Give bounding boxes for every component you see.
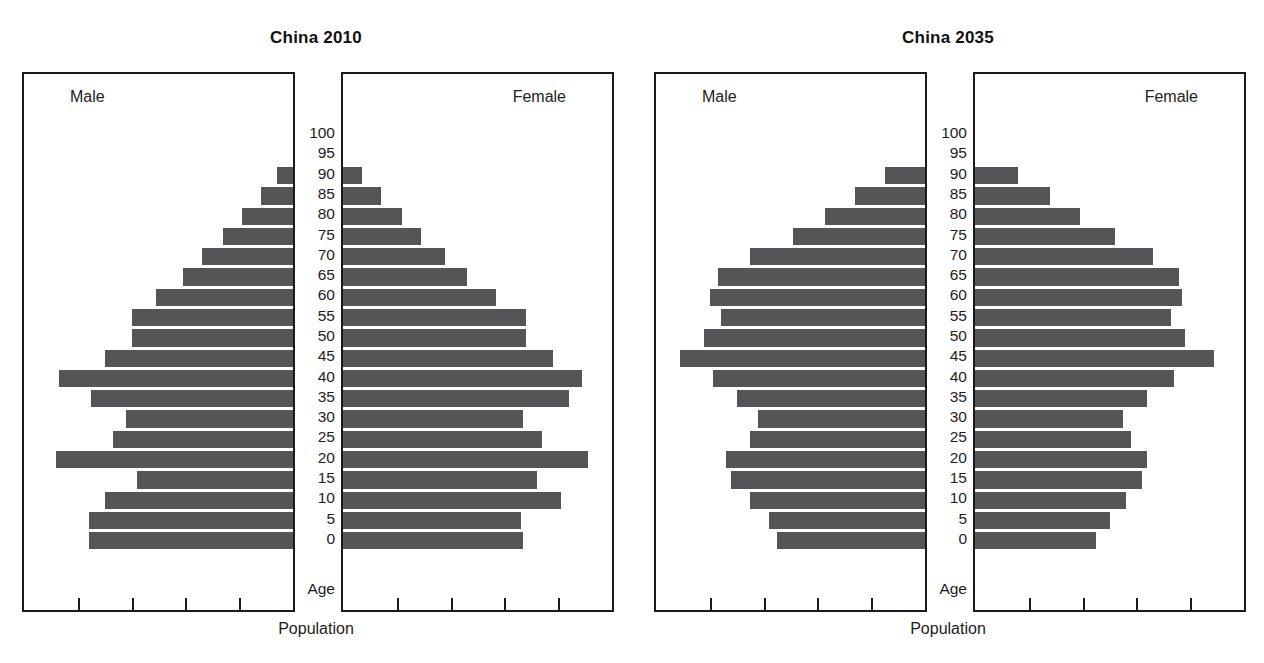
bar-row	[24, 247, 293, 267]
bar	[885, 167, 925, 184]
bar-row	[656, 348, 925, 368]
bar-row	[24, 531, 293, 551]
bar-row	[343, 328, 612, 348]
age-tick-label: 60	[927, 287, 967, 303]
age-tick-label: 20	[927, 450, 967, 466]
female-x-axis-ticks	[343, 598, 612, 611]
bar-row	[975, 166, 1244, 186]
bar	[975, 329, 1185, 346]
age-tick-label: 85	[295, 186, 335, 202]
bar-row	[343, 145, 612, 165]
bar-row	[656, 308, 925, 328]
bar-row	[656, 389, 925, 409]
bar	[718, 268, 925, 285]
bar	[975, 390, 1147, 407]
bar-row	[343, 166, 612, 186]
bar-row	[24, 409, 293, 429]
bar	[975, 532, 1096, 549]
age-tick-label: 25	[927, 429, 967, 445]
age-tick-label: 80	[295, 206, 335, 222]
female-bars-area	[975, 125, 1244, 551]
bar	[343, 329, 526, 346]
age-axis-caption: Age	[927, 580, 967, 598]
age-tick-label: 75	[927, 227, 967, 243]
bar	[825, 208, 925, 225]
female-bars-area	[343, 125, 612, 551]
bar	[343, 208, 402, 225]
bar-row	[656, 328, 925, 348]
bar-row	[975, 206, 1244, 226]
bar	[750, 431, 925, 448]
bar	[137, 471, 293, 488]
age-tick-label: 90	[927, 166, 967, 182]
pyramid-figure-china-2010: China 2010 Male Female Age 1009590858075…	[0, 0, 632, 663]
age-tick-label: 70	[927, 247, 967, 263]
bar	[769, 512, 925, 529]
bar	[975, 289, 1182, 306]
bar-row	[24, 145, 293, 165]
age-tick-label: 75	[295, 227, 335, 243]
bar	[223, 228, 293, 245]
age-tick-label: 45	[295, 348, 335, 364]
x-axis-tick	[451, 598, 453, 611]
bar	[750, 492, 925, 509]
x-axis-tick	[185, 598, 187, 611]
bar-row	[975, 389, 1244, 409]
bar-row	[656, 267, 925, 287]
bar-row	[656, 490, 925, 510]
bar	[343, 187, 381, 204]
bar	[975, 471, 1142, 488]
bar-row	[24, 287, 293, 307]
bar-row	[343, 368, 612, 388]
bar	[343, 390, 569, 407]
bar	[59, 370, 293, 387]
bar-row	[24, 267, 293, 287]
bar-row	[656, 368, 925, 388]
bar-row	[656, 429, 925, 449]
age-tick-label: 20	[295, 450, 335, 466]
bar	[721, 309, 925, 326]
bar-row	[656, 450, 925, 470]
bar-row	[975, 470, 1244, 490]
bar-row	[975, 531, 1244, 551]
bar-row	[656, 287, 925, 307]
bar	[242, 208, 293, 225]
bar	[704, 329, 925, 346]
bar-row	[975, 186, 1244, 206]
age-axis: Age 100959085807570656055504540353025201…	[295, 72, 341, 612]
bar-row	[24, 308, 293, 328]
bar-row	[343, 308, 612, 328]
age-tick-label: 80	[927, 206, 967, 222]
bar-row	[975, 125, 1244, 145]
bar	[105, 492, 293, 509]
bar	[343, 471, 537, 488]
age-tick-label: 70	[295, 247, 335, 263]
bar	[710, 289, 925, 306]
age-tick-label: 10	[295, 490, 335, 506]
bar	[975, 228, 1115, 245]
x-axis-tick	[817, 598, 819, 611]
age-tick-label: 90	[295, 166, 335, 182]
bar	[343, 451, 588, 468]
bar	[126, 410, 293, 427]
bar	[975, 350, 1214, 367]
x-axis-tick	[239, 598, 241, 611]
bar	[343, 512, 521, 529]
age-tick-label: 35	[927, 389, 967, 405]
bar	[975, 167, 1018, 184]
bar	[975, 451, 1147, 468]
age-axis-caption: Age	[295, 580, 335, 598]
bar-row	[343, 490, 612, 510]
bar-row	[343, 470, 612, 490]
bar-row	[656, 247, 925, 267]
bar-row	[343, 389, 612, 409]
bar	[89, 512, 293, 529]
male-x-axis-ticks	[24, 598, 293, 611]
chart-title: China 2010	[0, 28, 632, 48]
bar-row	[343, 206, 612, 226]
bar	[758, 410, 925, 427]
age-tick-label: 65	[295, 267, 335, 283]
bar-row	[975, 510, 1244, 530]
bar-row	[975, 490, 1244, 510]
bar	[975, 309, 1171, 326]
